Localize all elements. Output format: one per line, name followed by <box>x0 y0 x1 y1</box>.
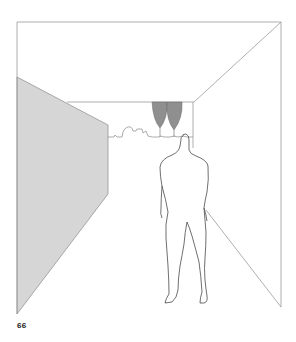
page-number: 66 <box>17 321 26 330</box>
hanging-lamps <box>152 102 182 137</box>
lamp-left <box>152 102 167 128</box>
lamp-right <box>167 102 182 130</box>
standing-figure <box>160 134 208 303</box>
skyline-line <box>108 127 193 137</box>
left-wall-shaded <box>17 77 108 314</box>
room-illustration <box>0 0 296 342</box>
